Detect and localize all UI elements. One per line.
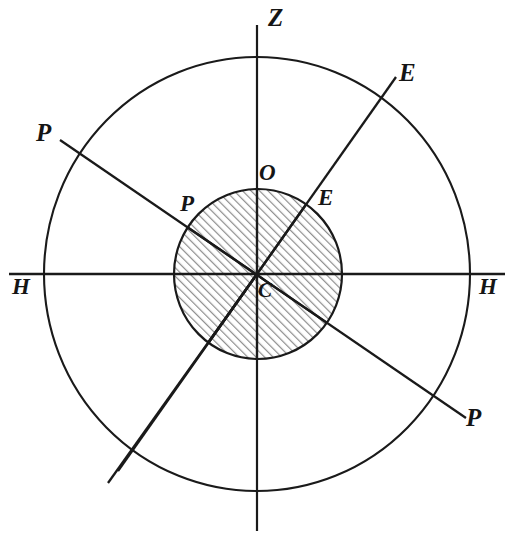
label-horizon-left-H: H: [12, 275, 30, 298]
celestial-sphere-diagram: Z E P O P E H H C P: [0, 0, 513, 534]
label-pole-inner-left-P: P: [180, 192, 194, 215]
label-pole-lower-right-P: P: [466, 405, 481, 430]
label-horizon-right-H: H: [479, 275, 497, 298]
label-observer-O: O: [259, 161, 276, 184]
label-pole-upper-left-P: P: [36, 120, 51, 145]
label-center-C: C: [258, 280, 272, 301]
label-zenith-Z: Z: [268, 5, 283, 30]
label-equator-outer-E: E: [399, 60, 416, 85]
diagram-canvas: [0, 0, 513, 534]
label-equator-inner-E: E: [318, 186, 333, 209]
